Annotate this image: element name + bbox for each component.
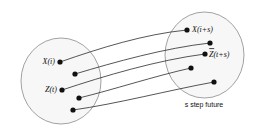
source-label-z-t: Z(t) [45,85,57,94]
source-point-dot-1 [57,59,62,64]
diagram-canvas: X(i) Z(t) X(i+s) Z(t+s) s step future [0,0,256,131]
source-point-dot-5 [70,107,75,112]
target-label-z-bar-t-plus-s: Z(t+s) [209,50,230,59]
source-point-dot-2 [72,71,77,76]
target-label-x-i-plus-s: X(i+s) [191,25,213,34]
future-set-caption: s step future [185,101,224,109]
target-point-dot-1 [184,27,189,32]
source-point-dot-3 [59,87,64,92]
target-point-dot-5 [211,79,216,84]
target-point-dot-2 [207,40,212,45]
target-point-dot-4 [188,65,193,70]
mapping-diagram: X(i) Z(t) X(i+s) Z(t+s) s step future [0,0,256,131]
source-label-x-i: X(i) [42,57,56,66]
target-point-dot-3 [202,51,207,56]
source-point-dot-4 [76,95,81,100]
